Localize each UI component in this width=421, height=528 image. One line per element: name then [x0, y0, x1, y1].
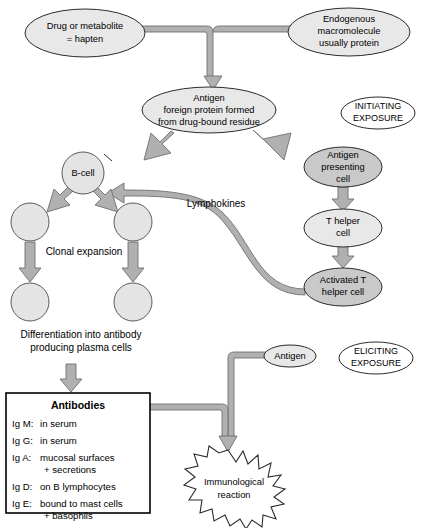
hapten-line2: = hapten — [67, 34, 103, 44]
antibody-value-igd: on B lymphocytes — [40, 481, 116, 492]
connector-differentiation-to-antibodies — [60, 364, 82, 392]
plasma-cell-left-lower[interactable] — [11, 283, 49, 321]
connector-antigen-to-bcell — [104, 131, 174, 161]
antibody-value-ige: bound to mast cells — [40, 498, 123, 509]
diagram-canvas: Drug or metabolite = hapten Endogenous m… — [0, 0, 421, 528]
antigen-formed-line3: from drug-bound residue — [158, 117, 260, 127]
node-immunological-reaction[interactable]: Immunological reaction — [184, 446, 285, 528]
connector-bcell-to-left-daughter — [47, 187, 73, 212]
connector-hapten-to-antigen — [141, 26, 213, 80]
t-helper-line2: cell — [336, 228, 350, 238]
activated-t-line1: Activated T — [320, 275, 367, 285]
connector-right-clonal-arrow — [122, 242, 144, 282]
eliciting-exposure-line1: ELICITING — [354, 346, 398, 356]
immunology-flow-diagram: Drug or metabolite = hapten Endogenous m… — [0, 0, 421, 528]
hapten-line1: Drug or metabolite — [47, 21, 123, 31]
antibody-value2-iga: + secretions — [44, 464, 96, 475]
node-initiating-exposure[interactable]: INITIATING EXPOSURE — [341, 97, 415, 129]
node-antigen-eliciting[interactable]: Antigen — [264, 345, 316, 367]
antigen-formed-line2: foreign protein formed — [164, 105, 255, 115]
apc-line2: presenting — [321, 162, 364, 172]
initiating-exposure-line1: INITIATING — [355, 101, 401, 111]
node-activated-t-helper-cell[interactable]: Activated T helper cell — [304, 268, 382, 306]
t-helper-line1: T helper — [326, 216, 360, 226]
immunological-reaction-line2: reaction — [217, 490, 250, 500]
immunological-reaction-line1: Immunological — [204, 477, 264, 487]
node-t-helper-cell[interactable]: T helper cell — [304, 209, 382, 247]
antibody-key-igm: Ig M: — [12, 418, 33, 429]
antibody-value-iga: mucosal surfaces — [40, 452, 115, 463]
antibody-key-igg: Ig G: — [12, 435, 33, 446]
antibody-value2-ige: + basophils — [44, 510, 93, 521]
plasma-cell-right-lower[interactable] — [114, 283, 152, 321]
daughter-cell-left-upper[interactable] — [11, 203, 49, 241]
eliciting-exposure-line2: EXPOSURE — [351, 358, 401, 368]
antibodies-box[interactable]: Antibodies Ig M: in serum Ig G: in serum… — [6, 393, 150, 521]
node-b-cell[interactable]: B-cell — [62, 152, 104, 194]
antibody-value-igg: in serum — [40, 435, 77, 446]
label-differentiation-line2: producing plasma cells — [30, 342, 132, 353]
apc-line1: Antigen — [327, 150, 359, 160]
antibody-key-iga: Ig A: — [12, 452, 31, 463]
endogenous-line1: Endogenous — [323, 14, 376, 24]
connector-thelper-to-activated — [332, 246, 354, 268]
connector-antibodies-to-junction — [150, 404, 228, 440]
b-cell-label: B-cell — [71, 168, 94, 178]
daughter-cell-right-upper[interactable] — [114, 203, 152, 241]
node-hapten[interactable]: Drug or metabolite = hapten — [25, 9, 145, 57]
endogenous-line2: macromolecule — [317, 26, 380, 36]
node-antigen-formed[interactable]: Antigen foreign protein formed from drug… — [142, 87, 276, 133]
connector-antigen-to-apc — [253, 130, 291, 160]
antibody-key-igd: Ig D: — [12, 481, 32, 492]
antibody-key-ige: Ig E: — [12, 498, 32, 509]
antigen-elicit-label: Antigen — [274, 351, 306, 361]
activated-t-line2: helper cell — [322, 287, 364, 297]
node-eliciting-exposure[interactable]: ELICITING EXPOSURE — [339, 342, 413, 374]
antibody-value-igm: in serum — [40, 418, 77, 429]
antigen-formed-line1: Antigen — [193, 93, 225, 103]
label-clonal-expansion: Clonal expansion — [46, 246, 123, 257]
apc-line3: cell — [336, 174, 350, 184]
node-endogenous-macromolecule[interactable]: Endogenous macromolecule usually protein — [288, 8, 410, 56]
node-antigen-presenting-cell[interactable]: Antigen presenting cell — [304, 147, 382, 187]
endogenous-line3: usually protein — [319, 38, 379, 48]
antibodies-box-title: Antibodies — [51, 399, 105, 411]
connector-apc-to-thelper — [332, 187, 354, 211]
connector-left-clonal-arrow — [19, 242, 41, 282]
connector-antigen-elicit-to-reaction — [228, 352, 266, 440]
initiating-exposure-line2: EXPOSURE — [353, 113, 403, 123]
connector-endogenous-to-antigen — [213, 26, 292, 32]
label-lymphokines: Lymphokines — [187, 198, 246, 209]
label-differentiation-line1: Differentiation into antibody — [20, 329, 141, 340]
